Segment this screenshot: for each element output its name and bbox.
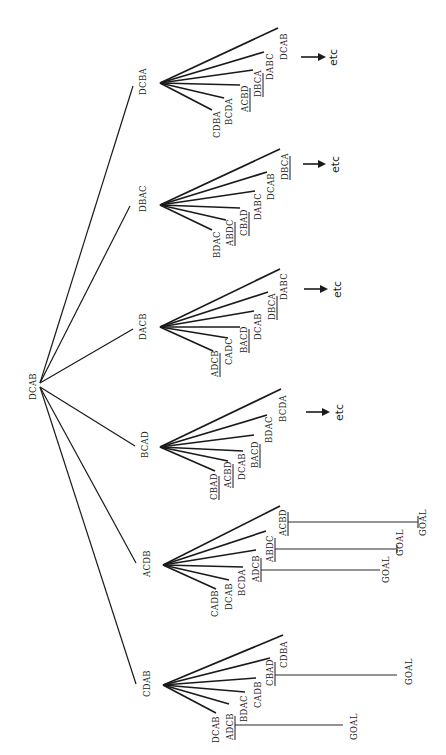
node-label: DBAC: [138, 185, 148, 212]
child-label: CBAD: [209, 473, 219, 500]
child-label: CBAD: [265, 659, 275, 686]
goal-label: GOAL: [404, 658, 414, 685]
continuation-arrow: etc: [301, 49, 340, 66]
root-node: DCAB: [28, 373, 38, 400]
child-label: CADB: [210, 590, 220, 617]
edge-root-n4: [40, 387, 135, 446]
child-label: DBCA: [253, 69, 263, 97]
etc-label: etc: [327, 49, 340, 66]
child-label: BCDA: [278, 394, 288, 422]
child-label: DCAB: [224, 583, 234, 610]
child-label: ACBD: [240, 85, 250, 113]
goal-label: GOAL: [395, 529, 405, 556]
etc-label: etc: [331, 281, 344, 298]
child-label: BACD: [239, 326, 249, 353]
child-label: CDBA: [279, 641, 289, 668]
child-label: DBCA: [280, 152, 290, 180]
child-label: CDBA: [212, 111, 222, 138]
child-label: DCAB: [211, 716, 221, 743]
child-label: ADCB: [225, 713, 235, 741]
branch-bcad: BCAD CBAD ACBD DCAB BACD BDAC BCDA etc: [140, 389, 346, 500]
child-label: BDAC: [239, 695, 249, 722]
node-label: DCBA: [138, 68, 148, 95]
search-tree-diagram: DCAB DCBA CDBA BCDA ACBD DBCA DABC DCAB: [0, 0, 446, 755]
etc-label: etc: [333, 404, 346, 421]
continuation-arrow: etc: [304, 281, 344, 298]
continuation-arrow: etc: [306, 404, 346, 421]
child-label: ABDC: [265, 535, 275, 563]
root-label: DCAB: [28, 373, 38, 400]
child-label: DCAB: [237, 453, 247, 480]
goal-label: GOAL: [418, 509, 428, 536]
child-label: DCAB: [253, 313, 263, 340]
child-label: BACD: [250, 441, 260, 468]
edge-root-n1: [40, 86, 133, 383]
child-label: BCDA: [237, 568, 247, 596]
node-label: DACB: [138, 313, 148, 340]
child-label: DABC: [265, 53, 275, 80]
child-label: DCAB: [266, 173, 276, 200]
child-label: DBCA: [267, 292, 277, 320]
node-label: ACDB: [142, 550, 152, 578]
goal-label: GOAL: [349, 713, 359, 740]
goal-label: GOAL: [381, 556, 391, 583]
child-label: DABC: [279, 273, 289, 300]
root-edges: [40, 86, 136, 684]
child-label: BCDA: [224, 97, 234, 125]
child-label: ADCB: [251, 555, 261, 583]
child-label: CADC: [224, 338, 234, 365]
child-label: ABDC: [225, 219, 235, 247]
child-label: DCAB: [279, 33, 289, 60]
child-label: ADCB: [210, 350, 220, 378]
branch-dbac: DBAC BDAC ABDC CBAD DABC DCAB DBCA etc: [138, 149, 342, 258]
child-label: DABC: [253, 193, 263, 220]
branch-acdb: ACDB CADB DCAB BCDA ADCB ABDC ACBD GOAL …: [142, 506, 428, 617]
branch-dacb: DACB ADCB CADC BACD DCAB DBCA DABC etc: [138, 269, 344, 378]
child-label: CBAD: [239, 209, 249, 236]
child-label: ACBD: [223, 461, 233, 489]
branch-cdab: CDAB DCAB ADCB BDAC CADB CBAD CDBA GOAL …: [142, 635, 414, 743]
fan-lines: [163, 506, 280, 589]
child-label: BDAC: [264, 416, 274, 443]
child-label: BDAC: [212, 231, 222, 258]
node-label: CDAB: [142, 670, 152, 697]
child-label: ACBD: [278, 509, 288, 537]
continuation-arrow: etc: [303, 156, 342, 173]
branch-dcba: DCBA CDBA BCDA ACBD DBCA DABC DCAB etc: [138, 28, 340, 138]
fan-lines: [160, 389, 281, 471]
child-label: CADB: [253, 681, 263, 708]
etc-label: etc: [329, 156, 342, 173]
node-label: BCAD: [140, 431, 150, 458]
